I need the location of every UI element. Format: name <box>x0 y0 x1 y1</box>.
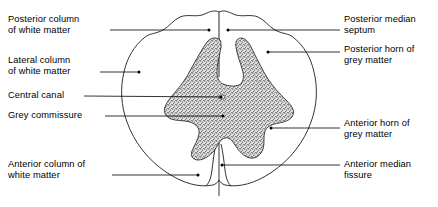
label-posterior-median-septum: Posterior median septum <box>344 14 416 37</box>
spinal-cord-diagram: Posterior column of white matterLateral … <box>0 0 438 207</box>
leader-dot-anterior-median-fissure <box>221 164 224 167</box>
label-anterior-median-fissure: Anterior median fissure <box>344 159 411 182</box>
label-posterior-column-white-matter: Posterior column of white matter <box>8 14 79 37</box>
leader-dot-posterior-column-white-matter <box>208 29 211 32</box>
label-anterior-horn-grey-matter: Anterior horn of grey matter <box>344 118 410 141</box>
leader-dot-grey-commissure <box>222 115 225 118</box>
label-grey-commissure: Grey commissure <box>8 110 82 121</box>
grey-matter <box>164 38 293 160</box>
label-central-canal: Central canal <box>8 90 64 101</box>
label-lateral-column-white-matter: Lateral column of white matter <box>8 55 70 78</box>
leader-dot-lateral-column-white-matter <box>138 71 141 74</box>
leader-dot-posterior-horn-grey-matter <box>267 51 270 54</box>
leader-dot-central-canal <box>220 96 223 99</box>
grey-matter-group <box>164 38 293 160</box>
label-posterior-horn-grey-matter: Posterior horn of grey matter <box>344 44 414 67</box>
leader-dot-anterior-column-white-matter <box>197 174 200 177</box>
label-anterior-column-white-matter: Anterior column of white matter <box>8 159 85 182</box>
leader-dot-posterior-median-septum <box>227 29 230 32</box>
leader-dot-anterior-horn-grey-matter <box>270 127 273 130</box>
